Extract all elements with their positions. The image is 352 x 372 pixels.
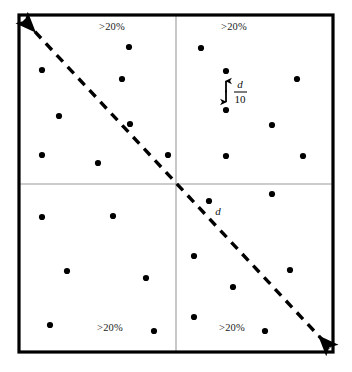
fraction-numerator-d: d bbox=[237, 78, 243, 90]
data-point bbox=[287, 267, 293, 273]
quadrant-diagram-svg: >20%>20%>20%>20% d 10 d bbox=[0, 0, 352, 372]
data-point bbox=[269, 122, 275, 128]
data-point bbox=[39, 67, 45, 73]
data-point bbox=[223, 107, 229, 113]
data-point bbox=[191, 314, 197, 320]
data-point bbox=[119, 76, 125, 82]
quadrant-label-top-left: >20% bbox=[99, 21, 125, 32]
data-point bbox=[39, 214, 45, 220]
data-point bbox=[223, 153, 229, 159]
data-point bbox=[143, 275, 149, 281]
data-point bbox=[151, 328, 157, 334]
data-point bbox=[47, 322, 53, 328]
data-point bbox=[191, 253, 197, 259]
data-point bbox=[95, 160, 101, 166]
quadrant-label-top-right: >20% bbox=[221, 21, 247, 32]
diagram-canvas: >20%>20%>20%>20% d 10 d bbox=[0, 0, 352, 372]
data-point bbox=[230, 284, 236, 290]
data-point bbox=[64, 268, 70, 274]
data-point bbox=[127, 121, 133, 127]
quadrant-label-bottom-right: >20% bbox=[219, 322, 245, 333]
quadrant-label-bottom-left: >20% bbox=[97, 322, 123, 333]
data-point bbox=[110, 213, 116, 219]
data-point bbox=[165, 152, 171, 158]
diagonal-distance-label-d: d bbox=[215, 205, 221, 217]
data-point bbox=[223, 68, 229, 74]
data-point bbox=[206, 198, 212, 204]
data-point bbox=[300, 153, 306, 159]
data-point bbox=[198, 45, 204, 51]
data-point bbox=[126, 44, 132, 50]
data-point bbox=[39, 152, 45, 158]
data-point bbox=[294, 76, 300, 82]
data-point bbox=[56, 113, 62, 119]
data-point bbox=[262, 328, 268, 334]
data-point bbox=[269, 191, 275, 197]
fraction-denominator-10: 10 bbox=[235, 93, 247, 105]
